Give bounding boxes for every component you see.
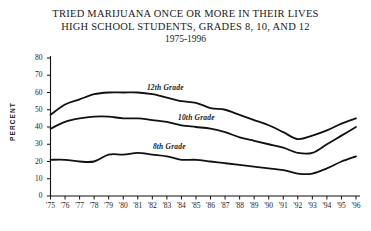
- series-label-grade-10: 10th Grade: [178, 113, 215, 122]
- series-label-grade-12: 12th Grade: [147, 83, 184, 92]
- series-label-grade-8: 8th Grade: [153, 142, 186, 151]
- chart-screenshot: TRIED MARIJUANA ONCE OR MORE IN THEIR LI…: [0, 0, 371, 231]
- series-lines: [51, 92, 357, 174]
- series-line-grade-10: [51, 116, 357, 153]
- series-line-grade-8: [51, 153, 357, 174]
